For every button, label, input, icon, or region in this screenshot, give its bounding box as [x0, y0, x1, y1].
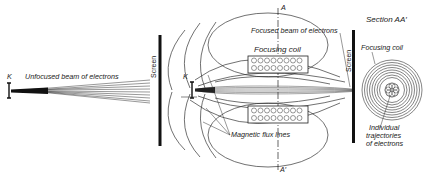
flux-lines	[168, 13, 345, 167]
electron-focusing-diagram	[0, 0, 426, 177]
focusing-coil-label: Focusing coil	[254, 46, 301, 54]
cathode-middle-icon	[190, 82, 194, 98]
screen-middle	[352, 30, 355, 143]
electron-trajectories	[385, 83, 399, 97]
focused-beam	[195, 86, 352, 94]
focused-beam-label: Focused beam of electrons	[251, 27, 338, 34]
section-title: Section AA′	[366, 16, 407, 24]
focusing-coil-top	[248, 56, 308, 73]
right-panel	[362, 52, 422, 128]
left-screen-label: Screen	[150, 56, 157, 78]
screen-left	[159, 35, 162, 146]
left-panel	[7, 35, 162, 146]
right-coil-label: Focusing coil	[361, 44, 403, 51]
section-a-label: A	[281, 4, 286, 11]
cathode-left-icon	[7, 83, 11, 98]
section-a-prime-label: A′	[280, 166, 286, 173]
middle-cathode-label: K	[183, 73, 188, 80]
coil-cross-section	[362, 60, 422, 120]
middle-screen-label: Screen	[345, 50, 352, 72]
unfocused-beam-label: Unfocused beam of electrons	[25, 73, 119, 80]
trajectories-label-3: of electrons	[366, 140, 403, 147]
left-cathode-label: K	[7, 73, 12, 80]
focusing-coil-bottom	[248, 106, 308, 123]
magnetic-flux-label: Magnetic flux lines	[231, 131, 290, 138]
